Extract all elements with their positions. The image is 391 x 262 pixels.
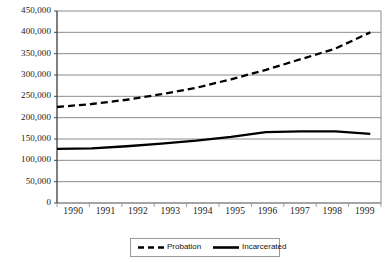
x-axis-tick-label: 1991	[89, 206, 121, 216]
x-axis-tick-label: 1994	[187, 206, 219, 216]
y-axis-tick-label: 0	[0, 197, 51, 207]
x-axis-tick-label: 1999	[349, 206, 381, 216]
y-axis-tick-label: 100,000	[0, 154, 51, 164]
x-axis-tick-label: 1990	[57, 206, 89, 216]
x-axis-tick-label: 1993	[154, 206, 186, 216]
y-axis-tick-label: 300,000	[0, 69, 51, 79]
series-line-probation	[57, 32, 370, 107]
plot-area	[0, 0, 391, 262]
y-axis-tick-label: 50,000	[0, 176, 51, 186]
legend-entry-label: Probation	[167, 242, 201, 251]
x-axis-tick-label: 1998	[316, 206, 348, 216]
x-axis-tick-label: 1992	[122, 206, 154, 216]
y-axis-tick-label: 450,000	[0, 5, 51, 15]
y-axis-tick-label: 200,000	[0, 112, 51, 122]
y-axis-tick-label: 150,000	[0, 133, 51, 143]
y-axis-tick-label: 250,000	[0, 90, 51, 100]
y-axis-tick-label: 400,000	[0, 26, 51, 36]
x-axis-tick-label: 1995	[219, 206, 251, 216]
y-axis-tick-label: 350,000	[0, 48, 51, 58]
legend-entry-label: Incarcerated	[242, 242, 286, 251]
x-axis-tick-label: 1997	[284, 206, 316, 216]
line-chart: 450,000400,000350,000300,000250,000200,0…	[0, 0, 391, 262]
x-axis-tick-label: 1996	[251, 206, 283, 216]
series-line-incarcerated	[57, 131, 370, 148]
